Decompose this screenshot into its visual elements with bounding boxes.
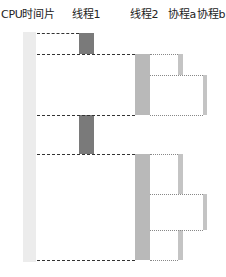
coroutine-line [150, 230, 203, 231]
thread2-segment [135, 54, 150, 115]
coroutine-a-label: 协程a [168, 5, 196, 21]
cpu-timeslice-bar [23, 32, 36, 262]
coroutine-b-segment [203, 194, 207, 230]
coroutine-a-segment [178, 54, 183, 75]
coroutine-b-segment [203, 75, 207, 115]
coroutine-line [150, 154, 178, 155]
switch-line [37, 33, 79, 34]
thread2-segment [135, 154, 150, 260]
switch-line [37, 54, 135, 55]
switch-line [37, 260, 135, 261]
coroutine-line [150, 115, 203, 116]
coroutine-b-label: 协程b [197, 5, 225, 21]
coroutine-a-segment [178, 230, 183, 260]
switch-line [37, 115, 135, 116]
coroutine-line [150, 54, 178, 55]
cpu-timeslice-label: CPU时间片 [1, 5, 55, 21]
thread2-label: 线程2 [130, 5, 158, 21]
coroutine-line [150, 194, 203, 195]
coroutine-line [150, 75, 203, 76]
thread1-segment [79, 33, 94, 54]
coroutine-line [150, 260, 178, 261]
thread1-segment [79, 115, 94, 154]
coroutine-a-segment [178, 154, 183, 194]
thread1-label: 线程1 [72, 5, 100, 21]
switch-line [37, 154, 135, 155]
